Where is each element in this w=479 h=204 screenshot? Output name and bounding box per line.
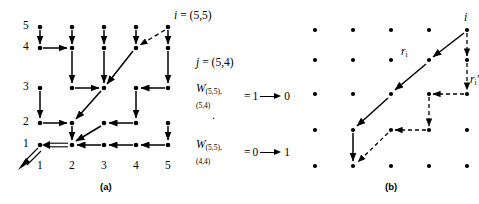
panel-a-ytick-3: 3 [23,81,29,93]
j-value: = (5,4) [202,56,233,68]
panel-a-xtick-5: 5 [165,160,171,172]
panel-a-separator-dot: . [212,110,215,122]
panel-b-graphics [290,0,474,204]
ri-subscript: i [405,50,407,59]
panel-a-xtick-2: 2 [69,160,75,172]
panel-b-caption: (b) [385,182,397,192]
equation-2-equals: = [244,146,251,158]
panel-a-equation-1: W(5,5),(5,4) = 1 0 [196,82,290,110]
equation-1-group: W(5,5),(5,4) [196,82,236,110]
panel-a-j-annotation: j= (5,4) [196,53,234,69]
panel-a-ytick-4: 4 [23,41,29,53]
equation-2-from: 0 [253,146,259,158]
panel-b-i-label: i [464,12,467,24]
i-value: = (5,5) [180,9,211,21]
panel-a: 5 4 3 2 1 1 2 3 4 5 i= (5,5) j= (5,4) W(… [0,0,290,204]
panel-a-dashed-arrows [140,30,165,45]
j-symbol: j [196,56,199,68]
equation-1-equals: = [244,90,251,102]
panel-b-nodes [313,28,469,168]
panel-a-equation-2: W(5,5),(4,4) = 0 1 [196,138,290,166]
equation-1-from: 1 [253,90,259,102]
equation-2-group: W(5,5),(4,4) [196,138,236,166]
panel-b: i ri ri′ (b) [290,0,474,204]
right-arrow-icon [260,148,282,156]
panel-b-ri-prime-label: ri′ [470,70,479,87]
panel-a-ytick-1: 1 [23,138,29,150]
panel-a-ytick-5: 5 [23,20,29,32]
panel-a-ytick-2: 2 [23,116,29,128]
panel-b-dashed-arrows [358,33,467,162]
equation-2-symbol: W [196,138,206,150]
panel-b-solid-arrows [353,33,464,161]
equation-1-symbol: W [196,82,206,94]
i-symbol: i [174,9,177,21]
panel-a-xtick-3: 3 [101,160,107,172]
panel-a-i-annotation: i= (5,5) [174,6,212,22]
panel-a-xtick-1: 1 [37,160,43,172]
right-arrow-icon [260,92,282,100]
panel-a-caption: (a) [100,182,112,192]
panel-a-double-arrow-row1 [42,141,68,149]
panel-b-ri-label: ri [401,42,408,59]
panel-a-xtick-4: 4 [133,160,139,172]
